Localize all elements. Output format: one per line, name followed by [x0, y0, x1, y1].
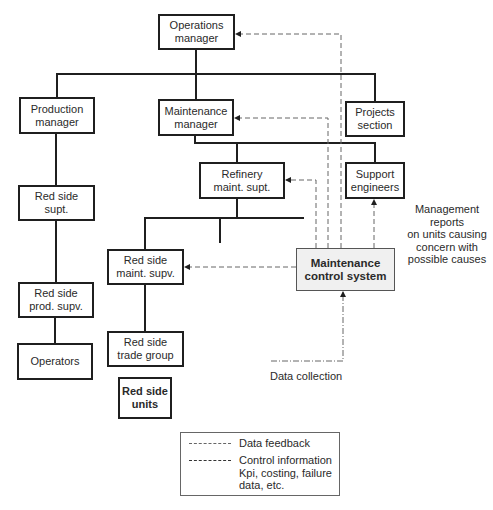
- node-red-side-maint-supv: Red side maint. supv.: [107, 249, 184, 285]
- data-collection-label: Data collection: [270, 370, 350, 383]
- node-red-side-prod-supv: Red side prod. supv.: [18, 282, 94, 318]
- dashed-line-icon: [189, 460, 231, 462]
- node-red-side-supt: Red side supt.: [18, 185, 95, 221]
- legend: Data feedback Control information Kpi, c…: [180, 432, 340, 496]
- node-projects-section: Projects section: [345, 101, 405, 137]
- dash-dot-line-icon: [189, 443, 231, 445]
- node-red-side-units: Red side units: [118, 377, 172, 419]
- node-production-manager: Production manager: [19, 97, 95, 134]
- legend-item-data-feedback: Data feedback: [189, 437, 310, 450]
- legend-item-control-information: Control information Kpi, costing, failur…: [189, 454, 332, 492]
- node-red-side-trade-group: Red side trade group: [107, 331, 184, 367]
- node-maintenance-control-system: Maintenance control system: [296, 248, 395, 291]
- node-support-engineers: Support engineers: [345, 162, 405, 199]
- node-operations-manager: Operations manager: [158, 14, 235, 50]
- legend-label: Control information Kpi, costing, failur…: [239, 454, 332, 492]
- node-operators: Operators: [17, 343, 93, 380]
- management-reports-note: Management reports on units causing conc…: [402, 203, 492, 266]
- node-maintenance-manager: Maintenance manager: [158, 99, 234, 136]
- node-refinery-maint-supt: Refinery maint. supt.: [199, 162, 285, 199]
- legend-label: Data feedback: [239, 437, 310, 450]
